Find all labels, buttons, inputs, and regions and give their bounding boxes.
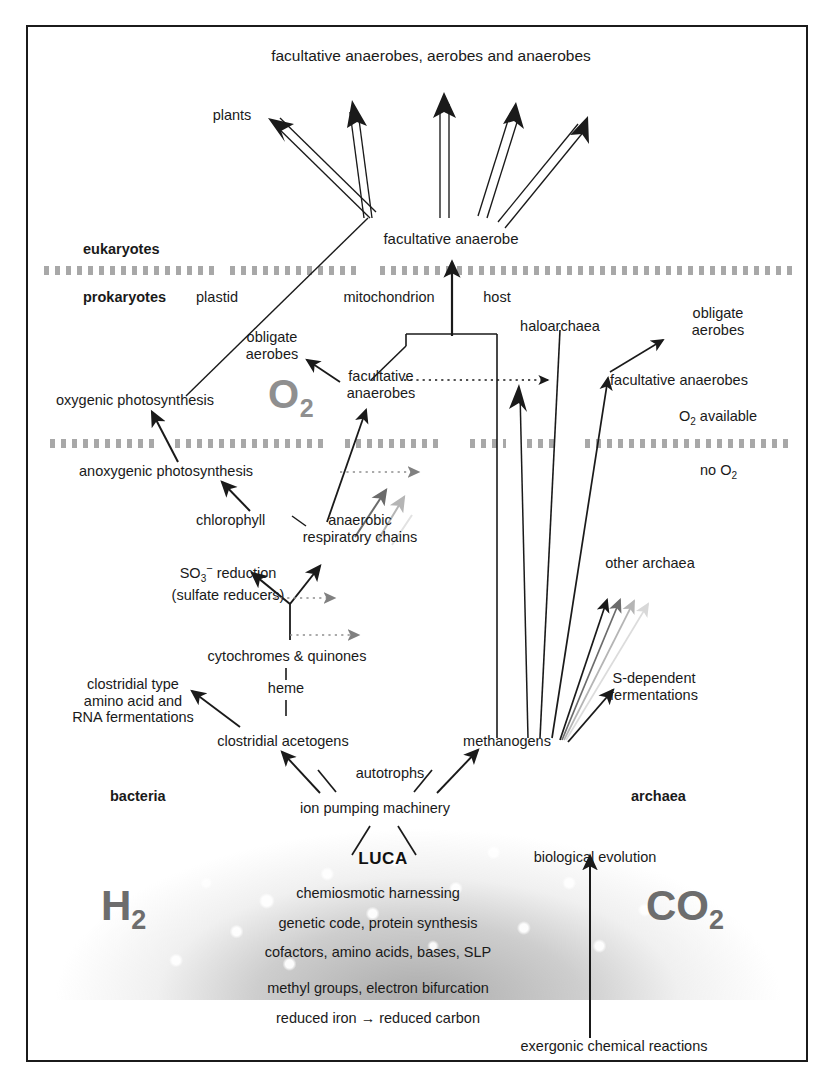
- eukaryote-prokaryote-boundary: [44, 266, 214, 275]
- label-eukaryotes: eukaryotes: [83, 241, 160, 258]
- label-so3-reduction: SO3− reduction (sulfate reducers): [143, 560, 313, 604]
- label-ion-pumping-machinery: ion pumping machinery: [300, 800, 450, 817]
- co2-symbol: CO: [646, 882, 709, 929]
- label-no-o2: no O2: [700, 462, 737, 484]
- label-oxygenic-photosynthesis: oxygenic photosynthesis: [56, 392, 214, 409]
- label-top-node: facultative anaerobes, aerobes and anaer…: [271, 48, 591, 65]
- label-obligate-aerobes-left: obligate aerobes: [229, 329, 315, 362]
- label-archaea: archaea: [631, 788, 686, 805]
- label-h2: H2: [101, 882, 146, 936]
- oxygen-boundary-5: [527, 439, 555, 448]
- label-anaerobic-respiratory-chains: anaerobic respiratory chains: [285, 512, 435, 545]
- label-facultative-anaerobes-right: facultative anaerobes: [610, 372, 748, 389]
- label-autotrophs: autotrophs: [356, 765, 425, 782]
- oxygen-boundary-1: [50, 439, 155, 448]
- oxygen-boundary-6: [585, 439, 790, 448]
- cloud-line-0: chemiosmotic harnessing: [296, 885, 460, 902]
- label-heme: heme: [268, 680, 304, 697]
- label-s-dependent-fermentations: S-dependent fermentations: [594, 670, 714, 703]
- label-plants: plants: [213, 107, 252, 124]
- label-biological-evolution: biological evolution: [534, 849, 657, 866]
- oxygen-boundary-2: [175, 439, 325, 448]
- label-anoxygenic-photosynthesis: anoxygenic photosynthesis: [79, 463, 253, 480]
- so3-line1: SO3− reduction: [180, 565, 277, 581]
- label-cytochromes-quinones: cytochromes & quinones: [208, 648, 367, 665]
- co2-sub: 2: [709, 905, 724, 935]
- o2-big-sub: 2: [300, 394, 314, 422]
- label-haloarchaea: haloarchaea: [520, 318, 600, 335]
- label-host: host: [483, 289, 510, 306]
- eukaryote-prokaryote-boundary-2: [230, 266, 362, 275]
- label-chlorophyll: chlorophyll: [196, 512, 265, 529]
- o2-big-symbol: O: [268, 372, 300, 416]
- h2-sub: 2: [131, 905, 146, 935]
- label-clostridial-acetogens: clostridial acetogens: [217, 733, 348, 750]
- label-luca: LUCA: [358, 849, 408, 869]
- label-other-archaea: other archaea: [605, 555, 694, 572]
- cloud-line-1: genetic code, protein synthesis: [278, 915, 477, 932]
- label-plastid: plastid: [196, 289, 238, 306]
- label-obligate-aerobes-right: obligate aerobes: [675, 305, 761, 338]
- label-co2: CO2: [646, 882, 724, 936]
- cloud-line-2: cofactors, amino acids, bases, SLP: [265, 944, 491, 961]
- label-facultative-anaerobes-left: facultative anaerobes: [333, 368, 429, 401]
- label-o2-available: O2 available: [679, 408, 757, 430]
- label-prokaryotes: prokaryotes: [83, 289, 166, 306]
- label-facultative-anaerobe: facultative anaerobe: [383, 231, 518, 248]
- so3-line2: (sulfate reducers): [172, 587, 285, 603]
- label-o2-big: O2: [268, 372, 314, 423]
- label-clostridial-fermentations: clostridial type amino acid and RNA ferm…: [47, 676, 219, 726]
- label-exergonic-reactions: exergonic chemical reactions: [521, 1038, 708, 1055]
- eukaryote-prokaryote-boundary-3: [380, 266, 792, 275]
- oxygen-boundary-4: [470, 439, 506, 448]
- h2-symbol: H: [101, 882, 131, 929]
- cloud-line-4: reduced iron → reduced carbon: [276, 1010, 480, 1027]
- label-methanogens: methanogens: [463, 733, 551, 750]
- cloud-line-3: methyl groups, electron bifurcation: [267, 980, 489, 997]
- label-mitochondrion: mitochondrion: [343, 289, 434, 306]
- label-bacteria: bacteria: [110, 788, 166, 805]
- oxygen-boundary-3: [345, 439, 443, 448]
